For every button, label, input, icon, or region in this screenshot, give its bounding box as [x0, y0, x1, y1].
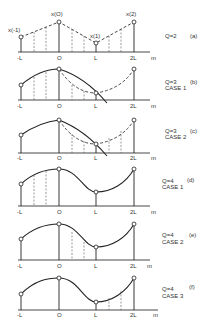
tick-2l: 2L	[130, 103, 137, 109]
panel-case: CASE 2	[162, 239, 184, 245]
axis-unit: m	[151, 103, 156, 109]
tick-2l: 2L	[130, 155, 137, 161]
tick-zero: O	[57, 263, 62, 269]
tick-zero: O	[57, 103, 62, 109]
tick-2l: 2L	[130, 55, 137, 61]
panel-tag: (f)	[189, 284, 195, 290]
panel-tag: (c)	[190, 128, 197, 134]
panel-q: Q=4	[162, 286, 174, 292]
tick-2l: 2L	[130, 209, 137, 215]
tick-zero: O	[57, 155, 62, 161]
tick-l: L	[94, 312, 98, 318]
node-label-x1: x(1)	[90, 33, 100, 39]
tick-zero: O	[57, 55, 62, 61]
tick-minus-l: -L	[17, 263, 23, 269]
panel-q: Q=4	[162, 232, 174, 238]
panel-f: -L O L 2L m Q=4 CASE 3 (f)	[17, 276, 195, 318]
axis-unit: m	[153, 312, 158, 318]
axis-unit: m	[151, 155, 156, 161]
axis-unit: m	[151, 55, 156, 61]
node-label-x2: x(2)	[126, 11, 136, 17]
panel-tag: (b)	[190, 79, 197, 85]
tick-minus-l: -L	[17, 103, 23, 109]
tick-minus-l: -L	[17, 312, 23, 318]
tick-zero: O	[57, 312, 62, 318]
panel-e: -L O L 2L m Q=4 CASE 2 (e)	[17, 222, 196, 269]
node-label-x0: x(O)	[51, 11, 63, 17]
tick-2l: 2L	[130, 263, 137, 269]
axis-unit: m	[151, 209, 156, 215]
panel-case: CASE 3	[162, 293, 184, 299]
tick-zero: O	[57, 209, 62, 215]
tick-minus-l: -L	[17, 209, 23, 215]
panel-case: CASE 1	[162, 184, 184, 190]
panel-tag: (e)	[189, 232, 196, 238]
panel-d: -L O L 2L m Q=4 CASE 1 (d)	[17, 167, 194, 215]
panel-b: -L O L 2L m Q=3 CASE 1 (b)	[17, 67, 197, 109]
tick-l: L	[94, 103, 98, 109]
panel-a: x(-1) x(O) x(1) x(2) -L O L 2L m Q=2 (a)	[8, 11, 197, 61]
axis-unit: m	[147, 263, 152, 269]
tick-minus-l: -L	[17, 55, 23, 61]
panel-case: CASE 1	[165, 85, 187, 91]
tick-l: L	[94, 263, 98, 269]
tick-minus-l: -L	[17, 155, 23, 161]
panel-case: CASE 2	[165, 134, 187, 140]
interpolation-diagram: x(-1) x(O) x(1) x(2) -L O L 2L m Q=2 (a)…	[0, 0, 210, 332]
panel-tag: (a)	[190, 33, 197, 39]
tick-2l: 2L	[130, 312, 137, 318]
panel-c: -L O L 2L m Q=3 CASE 2 (c)	[17, 118, 197, 161]
tick-l: L	[94, 55, 98, 61]
tick-l: L	[94, 209, 98, 215]
node-label-x-minus1: x(-1)	[8, 27, 20, 33]
panel-q: Q=2	[165, 33, 177, 39]
tick-l: L	[94, 155, 98, 161]
panel-tag: (d)	[187, 177, 194, 183]
